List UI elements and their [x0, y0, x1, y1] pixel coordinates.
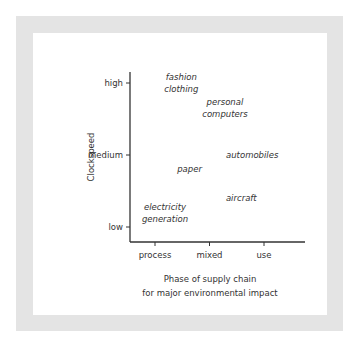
caption — [0, 343, 359, 359]
point-label-line: fashion — [166, 72, 197, 82]
point-aircraft: aircraft — [226, 193, 257, 203]
point-label-line: generation — [142, 214, 188, 224]
point-label-line: computers — [202, 109, 248, 119]
x-axis-label-line-2: for major environmental impact — [142, 288, 278, 298]
point-label-line: paper — [176, 164, 202, 174]
point-personal-computers: personalcomputers — [202, 97, 248, 119]
x-tick-label-mixed: mixed — [196, 250, 222, 260]
point-label-line: automobiles — [226, 150, 279, 160]
x-tick-label-use: use — [256, 250, 271, 260]
x-tick-label-process: process — [139, 250, 172, 260]
y-tick-label-high: high — [104, 78, 123, 88]
point-paper: paper — [176, 164, 202, 174]
clockspeed-diagram: lowmediumhigh processmixeduse fashionclo… — [0, 0, 359, 359]
y-axis-label: Clockspeed — [86, 133, 96, 182]
point-label-line: clothing — [164, 84, 199, 94]
x-axis-label-line-1: Phase of supply chain — [164, 274, 257, 284]
point-label-line: aircraft — [226, 193, 257, 203]
point-automobiles: automobiles — [226, 150, 279, 160]
point-electricity-generation: electricitygeneration — [142, 202, 188, 224]
point-fashion-clothing: fashionclothing — [164, 72, 199, 94]
y-tick-label-low: low — [108, 222, 123, 232]
point-label-line: personal — [206, 97, 244, 107]
point-label-line: electricity — [144, 202, 187, 212]
